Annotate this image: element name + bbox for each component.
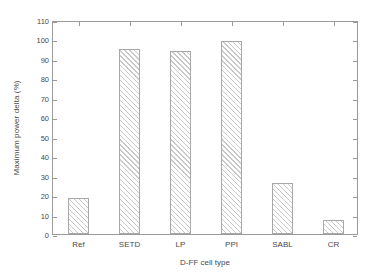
y-tick-label: 100 bbox=[36, 37, 49, 45]
y-tick-label: 70 bbox=[41, 96, 49, 104]
x-tick-label: CR bbox=[328, 240, 340, 249]
y-tick-mark-right bbox=[353, 139, 357, 140]
y-tick-mark bbox=[53, 236, 57, 237]
y-tick-mark-right bbox=[353, 236, 357, 237]
x-tick-mark-top bbox=[283, 22, 284, 26]
x-tick-mark-top bbox=[79, 22, 80, 26]
y-tick-label: 10 bbox=[41, 213, 49, 221]
x-tick-label: Ref bbox=[72, 240, 84, 249]
bar bbox=[119, 49, 139, 234]
y-tick-label: 110 bbox=[37, 18, 49, 26]
y-tick-mark bbox=[53, 119, 57, 120]
y-tick-mark-right bbox=[353, 158, 357, 159]
y-tick-mark bbox=[53, 217, 57, 218]
x-tick-label: SABL bbox=[272, 240, 292, 249]
x-tick-label: SETD bbox=[119, 240, 140, 249]
y-tick-mark-right bbox=[353, 197, 357, 198]
y-tick-mark-right bbox=[353, 217, 357, 218]
y-tick-label: 90 bbox=[41, 57, 49, 65]
x-tick-mark-top bbox=[232, 22, 233, 26]
y-tick-mark bbox=[53, 178, 57, 179]
y-tick-mark bbox=[53, 80, 57, 81]
bar bbox=[272, 183, 292, 234]
y-tick-mark bbox=[53, 139, 57, 140]
y-tick-mark bbox=[53, 100, 57, 101]
y-tick-mark-right bbox=[353, 61, 357, 62]
x-tick-mark-top bbox=[130, 22, 131, 26]
y-tick-label: 60 bbox=[41, 115, 49, 123]
plot-area: 0102030405060708090100110 RefSETDLPPPISA… bbox=[52, 21, 358, 235]
bar bbox=[323, 220, 343, 234]
y-tick-label: 30 bbox=[41, 174, 49, 182]
y-tick-label: 20 bbox=[41, 193, 49, 201]
x-tick-mark-top bbox=[181, 22, 182, 26]
y-tick-mark bbox=[53, 197, 57, 198]
x-tick-label: PPI bbox=[225, 240, 238, 249]
y-tick-mark bbox=[53, 41, 57, 42]
y-tick-mark-right bbox=[353, 100, 357, 101]
y-tick-mark bbox=[53, 61, 57, 62]
y-tick-label: 0 bbox=[45, 232, 49, 240]
y-tick-mark bbox=[53, 22, 57, 23]
y-tick-mark-right bbox=[353, 41, 357, 42]
bar bbox=[221, 41, 241, 234]
y-tick-label: 80 bbox=[41, 76, 49, 84]
x-tick-label: LP bbox=[176, 240, 186, 249]
bar bbox=[170, 51, 190, 234]
bar bbox=[68, 198, 88, 234]
y-tick-mark bbox=[53, 158, 57, 159]
y-axis-title: Maximum power delta (%) bbox=[11, 21, 23, 235]
bar-chart-figure: Maximum power delta (%) 0102030405060708… bbox=[0, 0, 386, 277]
y-tick-label: 50 bbox=[41, 135, 49, 143]
x-axis-title: D-FF cell type bbox=[52, 258, 358, 268]
y-tick-label: 40 bbox=[41, 154, 49, 162]
y-tick-mark-right bbox=[353, 80, 357, 81]
y-tick-mark-right bbox=[353, 119, 357, 120]
y-tick-mark-right bbox=[353, 178, 357, 179]
x-tick-mark-top bbox=[334, 22, 335, 26]
y-tick-mark-right bbox=[353, 22, 357, 23]
